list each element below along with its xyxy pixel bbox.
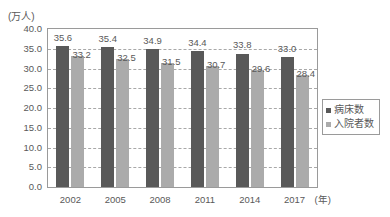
y-axis-unit-label: (万人) — [8, 11, 35, 23]
bar-chart: (万人) 40.035.030.025.020.015.010.05.00.0 … — [0, 0, 390, 217]
bar-2014-series-1 — [251, 70, 264, 187]
bar-2005-series-0 — [101, 47, 114, 187]
x-axis-tick-label-2002: 2002 — [50, 194, 90, 205]
value-label-2014-series-0: 33.8 — [228, 40, 256, 50]
legend-item-1: 入院者数 — [326, 117, 376, 131]
bar-2005-series-1 — [116, 59, 129, 187]
y-axis-tick-label: 0.0 — [0, 182, 42, 192]
value-label-2008-series-1: 31.5 — [162, 57, 190, 67]
y-axis-tick-label: 15.0 — [0, 123, 42, 133]
value-label-2014-series-1: 29.6 — [252, 64, 280, 74]
y-axis-tick-label: 35.0 — [0, 44, 42, 54]
legend-swatch-icon-series-0 — [326, 108, 331, 113]
x-axis-unit-label: (年) — [315, 194, 331, 205]
bar-2014-series-0 — [236, 54, 249, 188]
y-axis-tick-label: 5.0 — [0, 162, 42, 172]
bar-2002-series-0 — [56, 46, 69, 187]
bar-2017-series-1 — [296, 75, 309, 187]
gridline — [48, 108, 317, 109]
value-label-2011-series-1: 30.7 — [207, 60, 235, 70]
legend-label-series-1: 入院者数 — [334, 117, 374, 131]
legend-item-0: 病床数 — [326, 103, 376, 117]
legend-label-series-0: 病床数 — [334, 103, 364, 117]
value-label-2002-series-0: 35.6 — [49, 33, 77, 43]
value-label-2005-series-0: 35.4 — [94, 34, 122, 44]
value-label-2008-series-0: 34.9 — [139, 36, 167, 46]
value-label-2017-series-0: 33.0 — [273, 44, 301, 54]
gridline — [48, 148, 317, 149]
gridline — [48, 88, 317, 89]
y-axis-tick-label: 20.0 — [0, 103, 42, 113]
bar-2002-series-1 — [71, 56, 84, 187]
y-axis-tick-label: 10.0 — [0, 143, 42, 153]
bar-2011-series-0 — [191, 51, 204, 187]
value-label-2017-series-1: 28.4 — [297, 69, 325, 79]
bar-2008-series-1 — [161, 63, 174, 187]
value-label-2011-series-0: 34.4 — [183, 38, 211, 48]
x-axis-tick-label-2011: 2011 — [185, 194, 225, 205]
bar-2017-series-0 — [281, 57, 294, 187]
x-axis-tick-label-2008: 2008 — [140, 194, 180, 205]
x-axis-tick-label-2017: 2017 — [275, 194, 315, 205]
bar-2011-series-1 — [206, 66, 219, 187]
y-axis-tick-label: 25.0 — [0, 83, 42, 93]
gridline — [48, 167, 317, 168]
y-axis-tick-label: 30.0 — [0, 64, 42, 74]
legend-swatch-icon-series-1 — [326, 122, 331, 127]
x-axis-tick-label-2005: 2005 — [95, 194, 135, 205]
value-label-2002-series-1: 33.2 — [72, 50, 100, 60]
legend: 病床数 入院者数 — [322, 99, 380, 135]
value-label-2005-series-1: 32.5 — [117, 53, 145, 63]
y-axis-tick-label: 40.0 — [0, 24, 42, 34]
gridline — [48, 128, 317, 129]
x-axis-tick-label-2014: 2014 — [230, 194, 270, 205]
bar-2008-series-0 — [146, 49, 159, 187]
